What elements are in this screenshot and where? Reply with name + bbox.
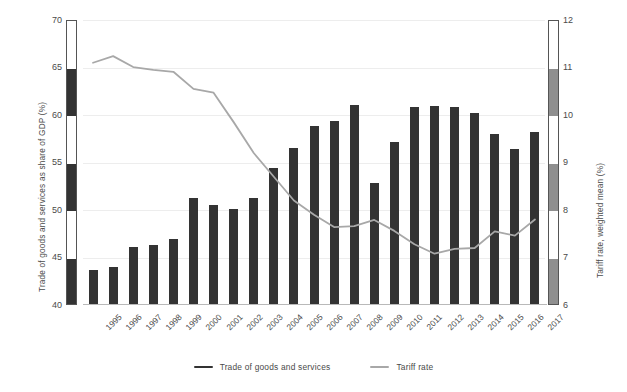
x-axis-tick-label: 2008 xyxy=(365,312,385,332)
axis-stripe-segment xyxy=(67,211,76,259)
y-axis-right-tick-label: 10 xyxy=(563,111,585,120)
y-axis-right-tick-label: 9 xyxy=(563,158,585,167)
axis-stripe-segment xyxy=(67,116,76,164)
axis-stripe-segment xyxy=(549,21,558,69)
y-axis-left-tick-label: 50 xyxy=(42,206,62,215)
x-axis-tick-label: 2014 xyxy=(485,312,505,332)
x-axis-ticks: 1995199619971998199920002001200220032004… xyxy=(83,306,545,356)
x-axis-tick-label: 2011 xyxy=(425,312,445,332)
x-axis-tick-label: 2002 xyxy=(244,312,264,332)
x-axis-tick-label: 2003 xyxy=(264,312,284,332)
right-axis-stripe-decoration xyxy=(548,20,559,305)
axis-stripe-segment xyxy=(67,21,76,69)
x-axis-baseline xyxy=(83,304,547,305)
x-axis-tick-label: 1996 xyxy=(124,312,144,332)
axis-stripe-segment xyxy=(549,164,558,212)
left-axis-stripe-decoration xyxy=(66,20,77,305)
x-axis-tick-label: 1995 xyxy=(103,312,123,332)
y-axis-left-tick-label: 55 xyxy=(42,158,62,167)
y-axis-right-tick-label: 7 xyxy=(563,253,585,262)
y-axis-left-tick-label: 60 xyxy=(42,111,62,120)
legend-label: Tariff rate xyxy=(396,362,433,372)
legend-item[interactable]: Trade of goods and services xyxy=(194,362,331,372)
y-axis-right-tick-label: 8 xyxy=(563,206,585,215)
x-axis-tick-label: 1997 xyxy=(144,312,164,332)
x-axis-tick-label: 2013 xyxy=(465,312,485,332)
y-axis-right-ticks: 6789101112 xyxy=(563,0,585,392)
y-axis-left-ticks: 40455055606570 xyxy=(42,0,62,392)
legend-swatch-icon xyxy=(194,366,213,369)
legend-swatch-icon xyxy=(370,366,389,369)
x-axis-tick-label: 2007 xyxy=(345,312,365,332)
legend-item[interactable]: Tariff rate xyxy=(370,362,433,372)
axis-stripe-segment xyxy=(67,164,76,212)
x-axis-tick-label: 2006 xyxy=(324,312,344,332)
y-axis-right-title: Tariff rate, weighted mean (%) xyxy=(596,163,605,278)
y-axis-right-tick-label: 12 xyxy=(563,16,585,25)
y-axis-left-tick-label: 45 xyxy=(42,253,62,262)
axis-stripe-segment xyxy=(549,69,558,117)
x-axis-tick-label: 1999 xyxy=(184,312,204,332)
x-axis-tick-label: 2005 xyxy=(304,312,324,332)
y-axis-right-tick-label: 11 xyxy=(563,63,585,72)
axis-stripe-segment xyxy=(549,211,558,259)
y-axis-left-tick-label: 65 xyxy=(42,63,62,72)
tariff-rate-line xyxy=(83,20,545,305)
x-axis-tick-label: 2004 xyxy=(284,312,304,332)
x-axis-tick-label: 2016 xyxy=(525,312,545,332)
y-axis-right-tick-label: 6 xyxy=(563,301,585,310)
x-axis-tick-label: 2009 xyxy=(385,312,405,332)
x-axis-tick-label: 2010 xyxy=(405,312,425,332)
plot-area xyxy=(83,20,545,305)
axis-stripe-segment xyxy=(67,259,76,306)
x-axis-tick-label: 2000 xyxy=(204,312,224,332)
chart-container: Trade of goods and services as share of … xyxy=(0,0,627,392)
x-axis-tick-label: 2001 xyxy=(224,312,244,332)
chart-legend: Trade of goods and servicesTariff rate xyxy=(0,362,627,372)
y-axis-left-tick-label: 70 xyxy=(42,16,62,25)
axis-stripe-segment xyxy=(549,116,558,164)
legend-label: Trade of goods and services xyxy=(220,362,331,372)
x-axis-tick-label: 2012 xyxy=(445,312,465,332)
axis-stripe-segment xyxy=(549,259,558,306)
axis-stripe-segment xyxy=(67,69,76,117)
x-axis-tick-label: 1998 xyxy=(164,312,184,332)
x-axis-tick-label: 2015 xyxy=(505,312,525,332)
y-axis-left-tick-label: 40 xyxy=(42,301,62,310)
